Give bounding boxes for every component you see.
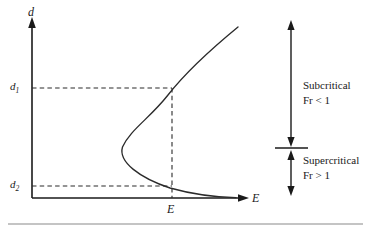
y-tick-label-d1: d1: [10, 81, 19, 95]
supercritical-arrowhead-up: [287, 150, 294, 160]
annotation-subcritical-condition: Fr < 1: [303, 95, 330, 106]
x-axis: [32, 194, 249, 202]
y-tick-label-d2-subscript: 2: [16, 184, 20, 193]
subcritical-arrowhead-up: [287, 20, 294, 30]
y-axis-label: d: [28, 6, 34, 18]
x-tick-label-E: E: [167, 203, 174, 215]
annotation-supercritical-condition: Fr > 1: [303, 170, 330, 181]
x-axis-label: E: [252, 192, 259, 204]
y-tick-label-d2: d2: [10, 179, 19, 193]
y-tick-label-d1-subscript: 1: [16, 86, 20, 95]
supercritical-arrowhead-down: [287, 186, 294, 196]
annotation-supercritical-name: Supercritical: [303, 155, 359, 166]
y-axis: [28, 17, 36, 198]
specific-energy-curve: [122, 27, 238, 198]
subcritical-arrowhead-down: [287, 137, 294, 147]
subcritical-arrow: [287, 20, 294, 147]
annotation-subcritical-name: Subcritical: [303, 80, 351, 91]
x-axis-arrowhead: [238, 194, 249, 202]
supercritical-arrow: [287, 150, 294, 196]
specific-energy-diagram: [0, 0, 371, 233]
